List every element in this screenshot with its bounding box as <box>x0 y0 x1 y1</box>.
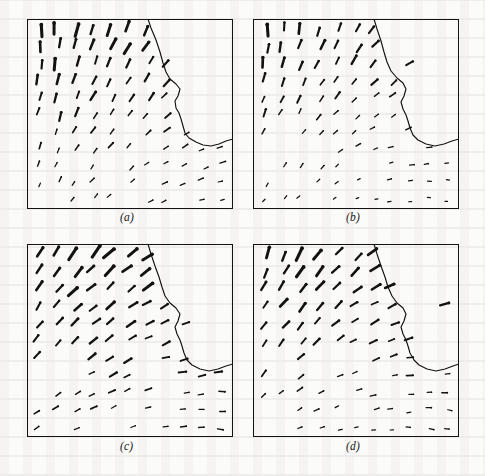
vector-arrowhead <box>80 303 83 306</box>
vector-arrowhead <box>135 247 139 251</box>
vector-arrowhead <box>93 283 96 286</box>
vector-arrowhead <box>39 23 43 27</box>
vector-arrowhead <box>355 78 357 80</box>
vector-arrowhead <box>266 301 268 303</box>
vector-arrowhead <box>431 146 433 148</box>
vector-arrowhead <box>301 61 304 64</box>
vector-arrowhead <box>447 301 450 304</box>
vector-arrowhead <box>165 92 167 94</box>
vector-arrowhead <box>115 405 117 407</box>
vector-arrowhead <box>133 165 135 167</box>
vector-arrowhead <box>361 388 363 390</box>
vector-arrowhead <box>166 181 168 183</box>
vector-arrowhead <box>38 40 41 43</box>
vector-arrowhead <box>169 112 171 114</box>
vector-arrowhead <box>394 303 397 306</box>
vector-arrowhead <box>149 300 152 303</box>
vector-arrowhead <box>321 265 325 269</box>
vector-arrowhead <box>337 110 339 112</box>
vector-arrowhead <box>41 91 43 93</box>
vector-arrowhead <box>305 337 307 339</box>
vector-arrowhead <box>374 59 377 62</box>
vector-field-plot-a <box>27 19 233 209</box>
vector-arrowhead <box>396 353 398 355</box>
vector-arrowhead <box>301 426 303 428</box>
vector-arrowhead <box>114 37 118 41</box>
vector-arrowhead <box>167 319 169 321</box>
vector-arrowhead <box>431 407 433 409</box>
vector-arrowhead <box>52 21 56 25</box>
vector-arrow <box>355 427 358 428</box>
vector-arrowhead <box>266 268 269 271</box>
vector-arrowhead <box>338 91 340 93</box>
vector-arrowhead <box>128 42 132 46</box>
vector-arrowhead <box>302 265 306 269</box>
vector-arrowhead <box>360 252 363 255</box>
vector-arrowhead <box>38 107 40 109</box>
vector-arrow <box>375 199 378 200</box>
vector-arrowhead <box>185 370 187 372</box>
vector-arrowhead <box>207 166 209 168</box>
vector-arrowhead <box>377 40 380 43</box>
vector-arrowhead <box>79 391 81 393</box>
vector-arrowhead <box>265 321 268 324</box>
vector-arrowhead <box>129 58 132 61</box>
vector-arrowhead <box>392 282 395 285</box>
vector-arrowhead <box>168 340 171 343</box>
vector-arrowhead <box>300 39 303 42</box>
vector-arrow <box>446 180 449 181</box>
vector-arrowhead <box>150 252 154 256</box>
vector-arrowhead <box>59 37 62 40</box>
vector-arrowhead <box>41 320 44 323</box>
vector-arrowhead <box>78 144 80 146</box>
vector-arrow <box>335 406 338 408</box>
vector-arrowhead <box>339 282 342 285</box>
vector-arrow <box>69 248 76 259</box>
object-boundary-contour-a <box>148 19 233 146</box>
vector-arrowhead <box>112 281 115 284</box>
vector-arrowhead <box>410 126 412 128</box>
vector-arrowhead <box>261 56 264 59</box>
vector-arrowhead <box>265 369 267 371</box>
vector-arrowhead <box>377 318 380 321</box>
vector-arrowhead <box>393 338 395 340</box>
vector-arrowhead <box>167 59 170 62</box>
vector-arrowhead <box>166 303 169 306</box>
vector-arrowhead <box>168 356 170 358</box>
vector-arrowhead <box>264 72 267 75</box>
vector-arrowhead <box>340 300 343 303</box>
vector-arrowhead <box>323 426 325 428</box>
vector-arrowhead <box>360 286 363 289</box>
vector-arrowhead <box>131 110 133 112</box>
vector-arrowhead <box>97 193 99 195</box>
vector-arrowhead <box>224 160 226 162</box>
vector-arrow <box>338 429 342 430</box>
vector-arrowhead <box>59 339 61 341</box>
vector-arrowhead <box>57 245 60 248</box>
vector-arrowhead <box>130 357 133 360</box>
vector-arrowhead <box>129 374 131 376</box>
vector-arrowhead <box>355 54 358 57</box>
vector-arrowhead <box>374 126 376 128</box>
vector-arrowhead <box>79 408 81 410</box>
vector-arrowhead <box>109 57 112 60</box>
vector-arrowhead <box>109 23 113 27</box>
vector-arrowhead <box>93 177 95 179</box>
vector-arrowhead <box>356 371 358 373</box>
vector-arrowhead <box>187 143 189 145</box>
vector-arrowhead <box>98 244 102 248</box>
vector-arrowhead <box>305 129 307 131</box>
vector-arrowhead <box>409 427 411 429</box>
vector-arrowhead <box>302 163 304 165</box>
panel-d <box>253 244 459 437</box>
vector-arrowhead <box>92 38 95 41</box>
vector-arrowhead <box>323 130 325 132</box>
vector-arrowhead <box>96 405 98 407</box>
vector-arrowhead <box>58 300 61 303</box>
vector-arrowhead <box>188 321 190 323</box>
vector-arrowhead <box>322 280 325 283</box>
vector-arrowhead <box>375 394 377 396</box>
vector-arrowhead <box>39 160 41 162</box>
vector-arrowhead <box>151 281 155 285</box>
vector-arrowhead <box>375 247 378 250</box>
